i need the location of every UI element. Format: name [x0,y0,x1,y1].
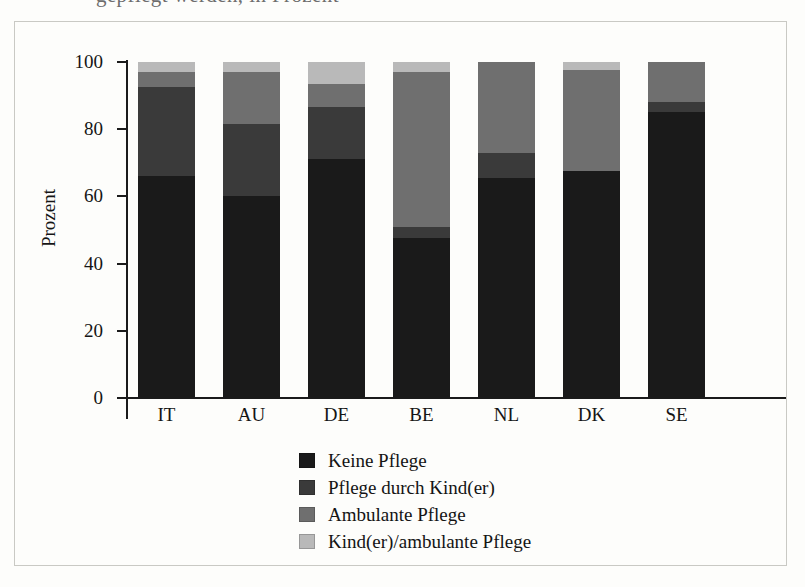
bar-segment-IT-2[interactable] [138,72,195,87]
x-tick-label-DE: DE [308,404,365,426]
bar-IT[interactable] [138,62,195,398]
bar-segment-AU-2[interactable] [223,72,280,124]
x-tick-label-BE: BE [393,404,450,426]
legend-item-3[interactable]: Kind(er)/ambulante Pflege [15,528,788,555]
legend-item-0[interactable]: Keine Pflege [15,447,788,474]
legend-label: Kind(er)/ambulante Pflege [328,532,531,551]
y-tick-mark [117,330,127,332]
y-tick-mark [117,195,127,197]
bar-segment-NL-2[interactable] [478,62,535,153]
x-tick-label-DK: DK [563,404,620,426]
bar-segment-DE-1[interactable] [308,107,365,159]
bar-segment-AU-0[interactable] [223,196,280,398]
bar-segment-SE-2[interactable] [648,62,705,102]
bar-segment-DK-0[interactable] [563,171,620,398]
x-tick-label-SE: SE [648,404,705,426]
bar-segment-BE-0[interactable] [393,238,450,398]
x-tick-label-AU: AU [223,404,280,426]
y-tick-label-20: 20 [31,321,103,340]
legend-swatch-icon [299,480,315,495]
y-tick-label-0: 0 [31,388,103,407]
y-tick-mark [117,128,127,130]
legend-item-1[interactable]: Pflege durch Kind(er) [15,474,788,501]
bar-DE[interactable] [308,62,365,398]
top-bleed-text-clip: gepflegt werden, in Prozent [0,0,805,14]
legend-label: Ambulante Pflege [328,505,466,524]
bar-segment-DK-3[interactable] [563,62,620,70]
y-tick-label-100: 100 [31,52,103,71]
bar-segment-AU-1[interactable] [223,124,280,196]
bar-segment-BE-2[interactable] [393,72,450,227]
y-axis-title: Prozent [38,158,60,278]
bar-BE[interactable] [393,62,450,398]
bar-SE[interactable] [648,62,705,398]
bar-segment-NL-0[interactable] [478,178,535,398]
bar-DK[interactable] [563,62,620,398]
y-tick-mark [117,263,127,265]
legend-swatch-icon [299,507,315,522]
bar-segment-IT-3[interactable] [138,62,195,72]
y-tick-mark [117,61,127,63]
bar-segment-DE-2[interactable] [308,84,365,108]
bar-segment-SE-0[interactable] [648,112,705,398]
y-tick-label-80: 80 [31,119,103,138]
bar-segment-DE-3[interactable] [308,62,365,84]
y-axis-line [126,60,128,419]
legend-swatch-icon [299,534,315,549]
x-tick-label-IT: IT [138,404,195,426]
legend-swatch-icon [299,453,315,468]
legend-label: Pflege durch Kind(er) [328,478,495,497]
cut-off-caption-text: gepflegt werden, in Prozent [96,0,339,8]
bar-segment-IT-0[interactable] [138,176,195,398]
bar-segment-SE-1[interactable] [648,102,705,112]
bar-segment-IT-1[interactable] [138,87,195,176]
bar-segment-BE-1[interactable] [393,227,450,239]
bar-segment-AU-3[interactable] [223,62,280,72]
legend-item-2[interactable]: Ambulante Pflege [15,501,788,528]
figure-frame: 020406080100 Prozent ITAUDEBENLDKSE Kein… [14,21,787,566]
legend-label: Keine Pflege [328,451,427,470]
bar-segment-DK-2[interactable] [563,70,620,171]
bar-segment-DE-0[interactable] [308,159,365,398]
bar-NL[interactable] [478,62,535,398]
bar-segment-BE-3[interactable] [393,62,450,72]
x-tick-label-NL: NL [478,404,535,426]
legend: Keine PflegePflege durch Kind(er)Ambulan… [15,447,788,555]
bar-segment-NL-1[interactable] [478,153,535,178]
bar-AU[interactable] [223,62,280,398]
y-tick-mark [117,397,127,399]
